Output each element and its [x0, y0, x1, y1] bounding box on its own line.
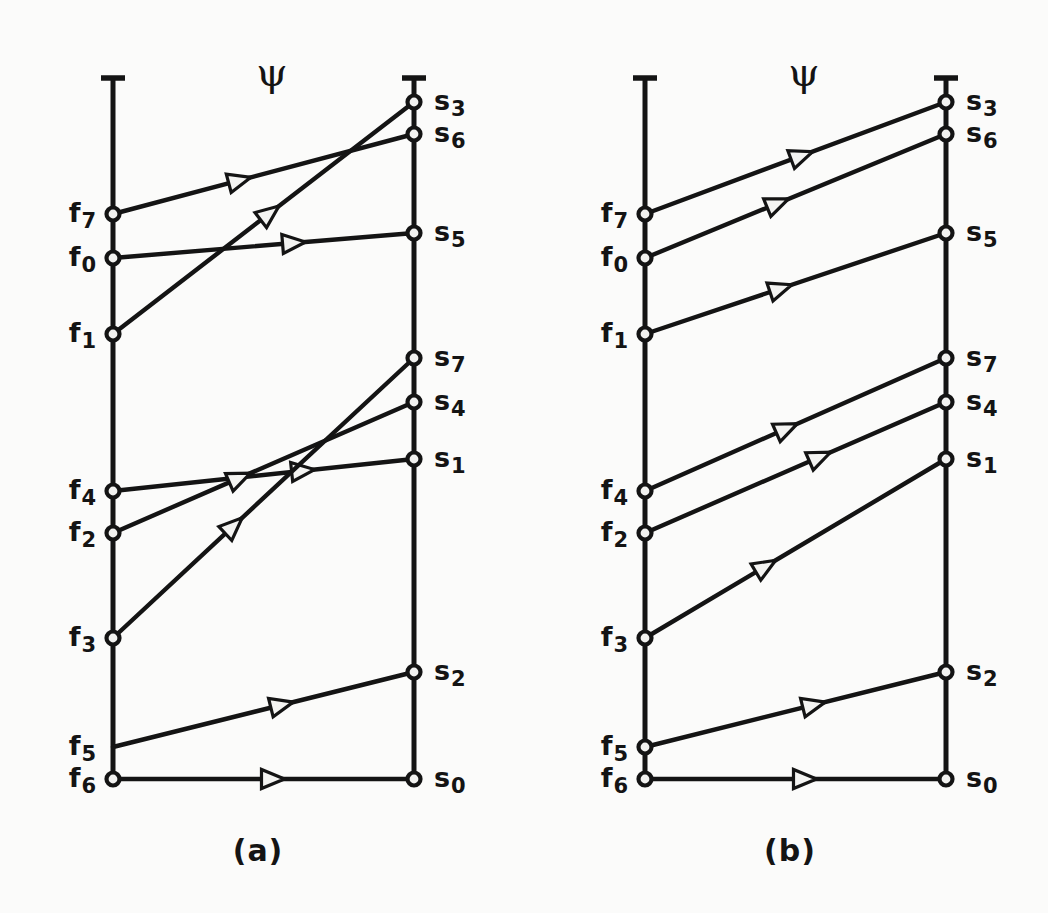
- label-s2-panel-b: s2: [966, 657, 997, 684]
- node-s7-panel-a[interactable]: [408, 352, 421, 365]
- label-s1-panel-a: s1: [434, 444, 465, 471]
- arrowhead-f4-to-s7-panel-b: [773, 424, 798, 442]
- edge-f2-to-s4-panel-b: [645, 402, 946, 533]
- figure-canvas: f7f0f1f4f2f3f5f6s3s6s5s7s4s1s2s0ψ(a)f7f0…: [0, 0, 1048, 913]
- edge-f5-to-s2-panel-b: [645, 672, 946, 747]
- node-f0-panel-a[interactable]: [107, 252, 120, 265]
- node-s5-panel-a[interactable]: [408, 227, 421, 240]
- node-f7-panel-b[interactable]: [639, 208, 652, 221]
- arrowhead-f6-to-s0-panel-b: [793, 770, 816, 789]
- arrowhead-f2-to-s4-panel-a: [226, 473, 251, 491]
- label-s4-panel-a: s4: [434, 387, 465, 414]
- node-s6-panel-a[interactable]: [408, 128, 421, 141]
- node-f6-panel-a[interactable]: [107, 773, 120, 786]
- node-s0-panel-b[interactable]: [940, 773, 953, 786]
- label-s3-panel-a: s3: [434, 87, 465, 114]
- node-f3-panel-b[interactable]: [639, 632, 652, 645]
- edge-f3-to-s1-panel-b: [645, 459, 946, 638]
- edge-f3-to-s7-panel-a: [113, 358, 414, 638]
- label-f7-panel-b: f7: [601, 199, 627, 226]
- psi-symbol-panel-b: ψ: [788, 52, 819, 92]
- node-f4-panel-a[interactable]: [107, 485, 120, 498]
- label-s0-panel-a: s0: [434, 764, 465, 791]
- node-s2-panel-a[interactable]: [408, 666, 421, 679]
- node-s3-panel-a[interactable]: [408, 96, 421, 109]
- label-f0-panel-a: f0: [69, 243, 95, 270]
- edge-f2-to-s4-panel-a: [113, 402, 414, 533]
- label-s1-panel-b: s1: [966, 444, 997, 471]
- label-f2-panel-a: f2: [69, 518, 95, 545]
- node-f7-panel-a[interactable]: [107, 208, 120, 221]
- arrowhead-f5-to-s2-panel-b: [801, 698, 826, 716]
- node-f2-panel-a[interactable]: [107, 527, 120, 540]
- label-s7-panel-b: s7: [966, 343, 997, 370]
- edge-f0-to-s5-panel-a: [113, 233, 414, 258]
- arrowhead-f3-to-s1-panel-b: [751, 560, 776, 580]
- label-f5-panel-a: f5: [69, 732, 95, 759]
- edge-f4-to-s1-panel-a: [113, 459, 414, 491]
- arrowhead-f6-to-s0-panel-a: [261, 770, 284, 789]
- node-f0-panel-b[interactable]: [639, 252, 652, 265]
- node-f3-panel-a[interactable]: [107, 632, 120, 645]
- label-f3-panel-b: f3: [601, 623, 627, 650]
- label-s4-panel-b: s4: [966, 387, 997, 414]
- node-s4-panel-a[interactable]: [408, 396, 421, 409]
- label-s5-panel-a: s5: [434, 218, 465, 245]
- label-s7-panel-a: s7: [434, 343, 465, 370]
- caption-panel-a: (a): [233, 833, 284, 868]
- label-s0-panel-b: s0: [966, 764, 997, 791]
- caption-panel-b: (b): [764, 833, 816, 868]
- node-s4-panel-b[interactable]: [940, 396, 953, 409]
- label-f6-panel-a: f6: [69, 764, 95, 791]
- label-f7-panel-a: f7: [69, 199, 95, 226]
- label-s2-panel-a: s2: [434, 657, 465, 684]
- edge-f7-to-s6-panel-a: [113, 134, 414, 214]
- arrowhead-f1-to-s5-panel-b: [767, 283, 792, 301]
- label-f4-panel-b: f4: [601, 476, 627, 503]
- label-f4-panel-a: f4: [69, 476, 95, 503]
- arrowhead-f0-to-s5-panel-a: [282, 234, 306, 253]
- label-s5-panel-b: s5: [966, 218, 997, 245]
- psi-symbol-panel-a: ψ: [256, 52, 287, 92]
- node-s7-panel-b[interactable]: [940, 352, 953, 365]
- label-f6-panel-b: f6: [601, 764, 627, 791]
- node-s1-panel-a[interactable]: [408, 453, 421, 466]
- label-s6-panel-a: s6: [434, 119, 465, 146]
- node-f1-panel-a[interactable]: [107, 328, 120, 341]
- label-f1-panel-a: f1: [69, 319, 95, 346]
- label-s6-panel-b: s6: [966, 119, 997, 146]
- node-s1-panel-b[interactable]: [940, 453, 953, 466]
- node-f4-panel-b[interactable]: [639, 485, 652, 498]
- label-f1-panel-b: f1: [601, 319, 627, 346]
- label-f0-panel-b: f0: [601, 243, 627, 270]
- node-s2-panel-b[interactable]: [940, 666, 953, 679]
- label-f3-panel-a: f3: [69, 623, 95, 650]
- label-s3-panel-b: s3: [966, 87, 997, 114]
- diagram-svg: [0, 0, 1048, 913]
- node-f5-panel-b[interactable]: [639, 741, 652, 754]
- arrowhead-f5-to-s2-panel-a: [269, 698, 294, 716]
- node-s6-panel-b[interactable]: [940, 128, 953, 141]
- edge-f5-to-s2-panel-a: [113, 672, 414, 747]
- node-s3-panel-b[interactable]: [940, 96, 953, 109]
- node-f2-panel-b[interactable]: [639, 527, 652, 540]
- node-f6-panel-b[interactable]: [639, 773, 652, 786]
- arrowhead-f0-to-s6-panel-b: [764, 199, 789, 217]
- label-f2-panel-b: f2: [601, 518, 627, 545]
- arrowhead-f7-to-s6-panel-a: [226, 174, 251, 192]
- node-s0-panel-a[interactable]: [408, 773, 421, 786]
- node-f1-panel-b[interactable]: [639, 328, 652, 341]
- arrowhead-f7-to-s3-panel-b: [788, 151, 813, 169]
- arrowhead-f2-to-s4-panel-b: [806, 452, 831, 470]
- node-s5-panel-b[interactable]: [940, 227, 953, 240]
- label-f5-panel-b: f5: [601, 732, 627, 759]
